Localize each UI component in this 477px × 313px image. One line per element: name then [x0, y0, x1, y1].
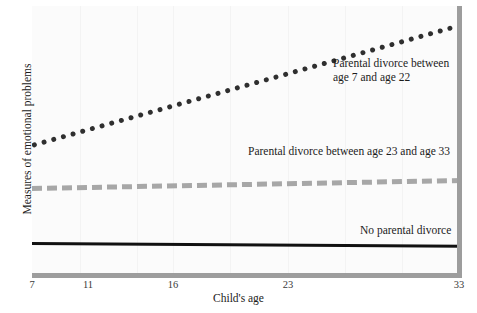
x-tick-label-7: 7 [20, 279, 44, 290]
gridline-vertical [80, 6, 81, 274]
x-axis-title: Child's age [0, 292, 477, 304]
gridline-vertical [230, 6, 231, 274]
gridline-vertical [137, 6, 138, 274]
gridline-vertical [345, 6, 346, 274]
series-line-no-parental-divorce [32, 242, 462, 248]
gridline-vertical [288, 6, 289, 274]
chart-figure: Parental divorce between age 7 and age 2… [0, 0, 477, 313]
gridline-vertical [173, 6, 174, 274]
x-tick-label-23: 23 [276, 279, 300, 290]
x-tick-label-33: 33 [447, 279, 471, 290]
annotation-divorce-age-7-22: Parental divorce between age 7 and age 2… [333, 57, 468, 84]
y-axis-title: Measures of emotional problems [21, 14, 33, 264]
annotation-no-parental-divorce: No parental divorce [360, 224, 475, 238]
x-tick-label-11: 11 [76, 279, 100, 290]
axis-bottom-bar [32, 273, 462, 278]
series-line-divorce-age-7-22 [32, 22, 462, 147]
x-tick-label-16: 16 [161, 279, 185, 290]
annotation-divorce-age-23-33: Parental divorce between age 23 and age … [248, 145, 473, 159]
series-line-divorce-age-23-33 [32, 178, 462, 191]
